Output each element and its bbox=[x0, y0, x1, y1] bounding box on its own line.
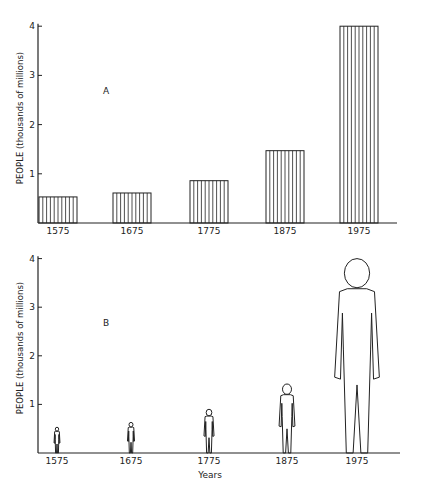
y-tick-label: 3 bbox=[29, 70, 35, 80]
panel-a-label: A bbox=[103, 86, 110, 96]
person-figure-1675 bbox=[127, 422, 134, 453]
population-figure: PEOPLE (thousands of millions) A 1234157… bbox=[0, 0, 425, 491]
bar-1975 bbox=[340, 26, 378, 223]
x-tick-label: 1875 bbox=[276, 456, 299, 466]
person-head-icon bbox=[129, 422, 133, 427]
x-tick-label: 1575 bbox=[46, 456, 69, 466]
x-tick-label: 1975 bbox=[346, 456, 369, 466]
y-tick-label: 2 bbox=[29, 351, 35, 361]
bar-1675 bbox=[113, 193, 151, 223]
y-tick-label: 2 bbox=[29, 120, 35, 130]
person-figure-1975 bbox=[335, 259, 380, 453]
y-tick-label: 1 bbox=[29, 169, 35, 179]
person-body-icon bbox=[335, 289, 380, 453]
panel-a-y-axis-label: PEOPLE (thousands of millions) bbox=[15, 52, 25, 184]
person-head-icon bbox=[206, 409, 212, 416]
person-body-icon bbox=[279, 395, 295, 453]
person-figure-1775 bbox=[204, 409, 214, 453]
x-tick-label: 1575 bbox=[47, 226, 70, 236]
person-figure-1875 bbox=[279, 384, 295, 453]
panel-b-label: B bbox=[103, 318, 109, 328]
y-tick-label: 4 bbox=[29, 21, 35, 31]
bar-1875 bbox=[266, 151, 304, 223]
panel-a-bars bbox=[39, 26, 378, 223]
x-tick-label: 1775 bbox=[198, 456, 221, 466]
panel-b-y-axis-label: PEOPLE (thousands of millions) bbox=[15, 282, 25, 414]
person-body-icon bbox=[54, 431, 60, 453]
panel-a-bar-chart: PEOPLE (thousands of millions) A 1234157… bbox=[15, 21, 397, 236]
bar-1575 bbox=[39, 197, 77, 223]
y-tick-label: 3 bbox=[29, 302, 35, 312]
x-tick-label: 1875 bbox=[274, 226, 297, 236]
bar-1775 bbox=[190, 181, 228, 223]
person-head-icon bbox=[55, 427, 58, 431]
panel-b-people-figures bbox=[54, 259, 379, 453]
person-body-icon bbox=[127, 427, 134, 453]
x-tick-label: 1775 bbox=[198, 226, 221, 236]
person-body-icon bbox=[204, 416, 214, 453]
person-head-icon bbox=[344, 259, 369, 288]
person-figure-1575 bbox=[54, 427, 60, 453]
panel-b-pictogram-chart: PEOPLE (thousands of millions) B 1234157… bbox=[15, 254, 400, 480]
x-tick-label: 1675 bbox=[120, 456, 143, 466]
x-tick-label: 1975 bbox=[348, 226, 371, 236]
person-head-icon bbox=[283, 384, 292, 394]
panel-b-x-axis-label: Years bbox=[197, 470, 222, 480]
x-tick-label: 1675 bbox=[121, 226, 144, 236]
y-tick-label: 4 bbox=[29, 254, 35, 264]
y-tick-label: 1 bbox=[29, 399, 35, 409]
